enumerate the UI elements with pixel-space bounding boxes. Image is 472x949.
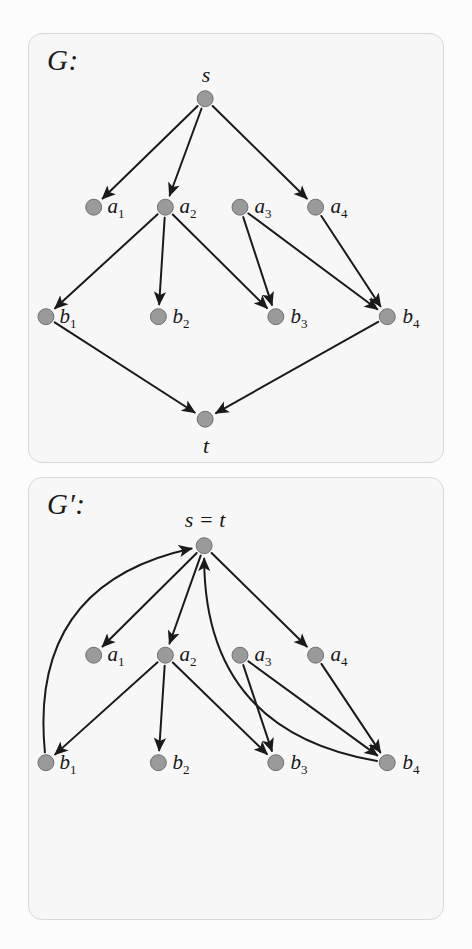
edge-a3-to-b3 — [243, 217, 272, 305]
edge-b4-to-t — [216, 322, 378, 413]
node-label-b1: b1 — [60, 750, 77, 778]
node-label-b4: b4 — [403, 750, 420, 778]
graph-node-b3[interactable] — [268, 755, 284, 771]
graph-node-b1[interactable] — [38, 309, 54, 325]
edge-s-to-a2 — [170, 109, 202, 196]
edge-a4-to-b4 — [321, 664, 380, 752]
node-label-b1: b1 — [60, 304, 77, 332]
graph-node-b4[interactable] — [379, 755, 395, 771]
node-label-b2: b2 — [173, 750, 190, 778]
edge-b4-to-s — [204, 559, 377, 761]
graph-node-a2[interactable] — [157, 199, 173, 215]
node-label-b4: b4 — [403, 304, 420, 332]
node-label-t: t — [203, 433, 209, 459]
node-label-a3: a3 — [255, 642, 272, 670]
edge-s-to-a2 — [169, 556, 200, 644]
node-label-b3: b3 — [291, 750, 308, 778]
node-label-a1: a1 — [108, 194, 125, 222]
graph-node-b3[interactable] — [268, 309, 284, 325]
graph-node-s[interactable] — [196, 538, 212, 554]
scanned-page: G: sa1a2a3a4b1b2b3b4t G′: s = ta1a2a3a4b… — [0, 0, 472, 949]
graph-node-b2[interactable] — [150, 755, 166, 771]
edge-s-to-a1 — [103, 106, 198, 199]
edge-a4-to-b4 — [321, 216, 380, 306]
graph-node-t[interactable] — [197, 411, 213, 427]
edge-a2-to-b3 — [173, 215, 267, 308]
edge-a2-to-b2 — [159, 218, 165, 305]
graph-node-s[interactable] — [197, 91, 213, 107]
graph-node-a4[interactable] — [308, 199, 324, 215]
edge-s-to-a1 — [103, 553, 197, 646]
edge-a2-to-b1 — [55, 662, 157, 754]
graph-node-a4[interactable] — [308, 647, 324, 663]
node-label-a4: a4 — [331, 642, 348, 670]
node-label-a2: a2 — [180, 194, 197, 222]
graph-node-b4[interactable] — [379, 309, 395, 325]
graph-panel-g: G: sa1a2a3a4b1b2b3b4t — [28, 33, 444, 463]
node-label-a3: a3 — [255, 194, 272, 222]
edge-s-to-a4 — [213, 106, 307, 198]
graph-node-a1[interactable] — [86, 199, 102, 215]
graph-node-b2[interactable] — [150, 309, 166, 325]
node-label-s: s — [202, 62, 211, 88]
node-label-s: s = t — [185, 507, 226, 533]
graph-node-a2[interactable] — [157, 647, 173, 663]
edge-b1-to-t — [55, 322, 195, 412]
edge-a2-to-b3 — [173, 662, 267, 754]
graph-node-a3[interactable] — [232, 647, 248, 663]
node-label-b2: b2 — [173, 304, 190, 332]
node-label-a1: a1 — [108, 642, 125, 670]
edge-a3-to-b3 — [243, 665, 272, 751]
graph-node-a3[interactable] — [232, 199, 248, 215]
graph-node-a1[interactable] — [86, 647, 102, 663]
graph-panel-g-prime: G′: s = ta1a2a3a4b1b2b3b4 — [28, 477, 444, 920]
node-label-a2: a2 — [180, 642, 197, 670]
graph-node-b1[interactable] — [38, 755, 54, 771]
node-label-b3: b3 — [291, 304, 308, 332]
edge-a2-to-b1 — [55, 214, 158, 308]
graph-g-canvas — [29, 34, 443, 462]
edge-s-to-a4 — [212, 553, 307, 646]
graph-g-prime-canvas — [29, 478, 443, 919]
node-label-a4: a4 — [331, 194, 348, 222]
edge-a2-to-b2 — [159, 666, 164, 751]
